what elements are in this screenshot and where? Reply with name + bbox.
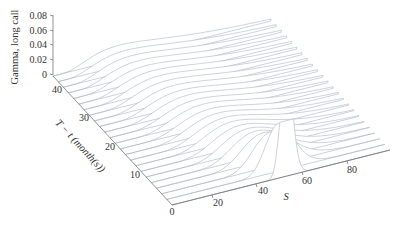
z-axis-ticks: 0 0.02 0.04 0.06 0.08 [30,10,54,80]
t-axis-label: T − t (month(s)) [53,117,108,175]
s-tick-40: 40 [258,185,268,196]
t-tick-40: 40 [52,84,62,95]
surface-slices [53,19,390,205]
s-tick-80: 80 [347,164,357,175]
t-tick-30: 30 [79,112,89,123]
gamma-surface-chart: 0 0.02 0.04 0.06 0.08 Gamma, long call 4… [0,0,400,226]
t-tick-20: 20 [105,141,115,152]
z-tick-002: 0.02 [30,54,48,65]
s-tick-20: 20 [213,197,223,208]
z-tick-0: 0 [42,69,47,80]
s-tick-60: 60 [302,175,312,186]
z-tick-008: 0.08 [30,10,48,21]
t-tick-0: 0 [170,206,175,217]
z-tick-006: 0.06 [30,25,48,36]
t-tick-10: 10 [130,169,140,180]
z-axis-label: Gamma, long call [9,9,20,84]
z-tick-004: 0.04 [30,39,48,50]
s-axis-label: S [283,191,289,202]
